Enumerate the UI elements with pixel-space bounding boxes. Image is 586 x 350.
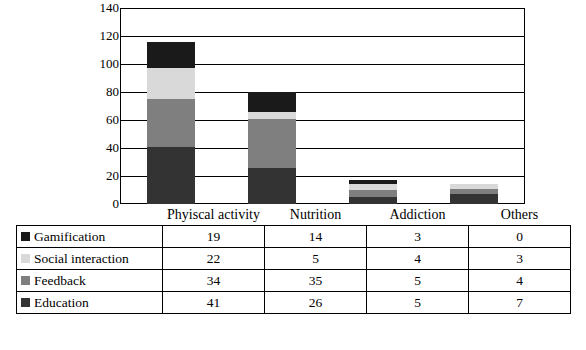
column-header: Others	[469, 204, 571, 226]
data-table: Phyiscal activity Nutrition Addiction Ot…	[16, 204, 571, 314]
segment-feedback	[248, 119, 296, 168]
header-corner	[17, 204, 163, 226]
legend-swatch-icon	[21, 254, 30, 263]
stacked-bar	[248, 92, 296, 204]
segment-education	[349, 197, 397, 204]
cell-value: 5	[367, 270, 469, 292]
series-label: Feedback	[34, 273, 86, 289]
column-header: Phyiscal activity	[163, 204, 265, 226]
column-header: Addiction	[367, 204, 469, 226]
cell-value: 22	[163, 248, 265, 270]
segment-social-interaction	[147, 68, 195, 99]
series-legend-cell: Education	[17, 292, 163, 314]
segment-gamification	[248, 92, 296, 112]
series-legend-cell: Social interaction	[17, 248, 163, 270]
y-tick-label: 60	[79, 115, 119, 125]
series-label: Social interaction	[34, 251, 129, 267]
series-label: Education	[34, 295, 89, 311]
cell-value: 4	[367, 248, 469, 270]
segment-education	[248, 168, 296, 204]
cell-value: 7	[469, 292, 571, 314]
cell-value: 26	[265, 292, 367, 314]
stacked-bar	[349, 180, 397, 204]
series-legend-cell: Gamification	[17, 226, 163, 248]
segment-social-interaction	[248, 112, 296, 119]
column-header: Nutrition	[265, 204, 367, 226]
bar-column-3	[424, 8, 525, 204]
y-tick-label: 140	[79, 3, 119, 13]
cell-value: 35	[265, 270, 367, 292]
cell-value: 3	[367, 226, 469, 248]
table-row: Gamification 19 14 3 0	[17, 226, 571, 248]
series-legend-cell: Feedback	[17, 270, 163, 292]
cell-value: 41	[163, 292, 265, 314]
y-tick-label: 80	[79, 87, 119, 97]
plot-area: 140 120 100 80 60 40 20 0	[120, 8, 525, 204]
cell-value: 0	[469, 226, 571, 248]
cell-value: 34	[163, 270, 265, 292]
table-header-row: Phyiscal activity Nutrition Addiction Ot…	[17, 204, 571, 226]
bar-column-1	[221, 8, 322, 204]
table-row: Feedback 34 35 5 4	[17, 270, 571, 292]
y-tick-label: 20	[79, 171, 119, 181]
y-tick-label: 120	[79, 31, 119, 41]
segment-feedback	[147, 99, 195, 147]
cell-value: 14	[265, 226, 367, 248]
bar-columns	[120, 8, 525, 204]
y-tick-label: 100	[79, 59, 119, 69]
segment-education	[147, 147, 195, 204]
cell-value: 4	[469, 270, 571, 292]
table-row: Social interaction 22 5 4 3	[17, 248, 571, 270]
chart-root: 140 120 100 80 60 40 20 0	[0, 0, 586, 350]
cell-value: 3	[469, 248, 571, 270]
stacked-bar	[450, 184, 498, 204]
legend-swatch-icon	[21, 298, 30, 307]
series-label: Gamification	[34, 229, 105, 245]
bar-column-2	[323, 8, 424, 204]
y-tick-label: 40	[79, 143, 119, 153]
cell-value: 5	[367, 292, 469, 314]
bar-column-0	[120, 8, 221, 204]
cell-value: 5	[265, 248, 367, 270]
segment-education	[450, 194, 498, 204]
legend-swatch-icon	[21, 232, 30, 241]
segment-feedback	[349, 190, 397, 197]
legend-swatch-icon	[21, 276, 30, 285]
table-row: Education 41 26 5 7	[17, 292, 571, 314]
stacked-bar	[147, 42, 195, 204]
segment-gamification	[147, 42, 195, 69]
cell-value: 19	[163, 226, 265, 248]
